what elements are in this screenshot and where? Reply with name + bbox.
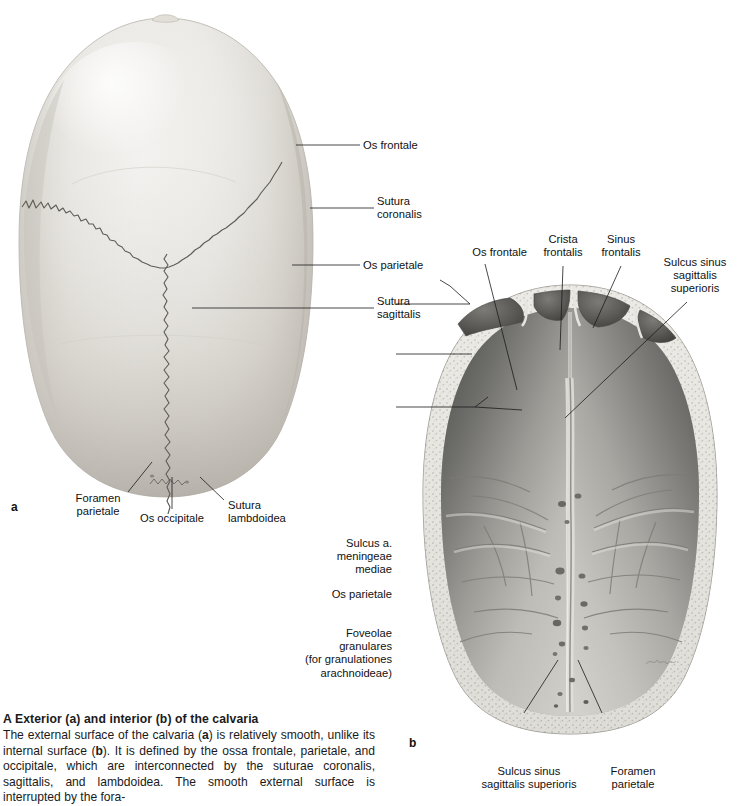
label-sulcus-sinus-sagittalis-superioris-bottom: Sulcus sinus sagittalis superioris — [470, 765, 588, 791]
figure-letter-a: a — [11, 500, 18, 514]
figure-letter-b: b — [409, 736, 416, 750]
caption-bold-a: a — [202, 728, 209, 742]
figure-caption: A Exterior (a) and interior (b) of the c… — [3, 712, 375, 806]
label-sinus-frontalis: Sinus frontalis — [589, 233, 653, 259]
figure-a-illustration — [0, 14, 340, 514]
label-sulcus-arteriae-meningeae-mediae: Sulcus a. meningeae mediae — [300, 537, 392, 577]
label-sulcus-sinus-sagittalis-superioris-top: Sulcus sinus sagittalis superioris — [653, 256, 737, 296]
calvaria-exterior-svg — [0, 14, 340, 514]
caption-heading: A Exterior (a) and interior (b) of the c… — [3, 712, 375, 726]
label-os-frontale-b: Os frontale — [455, 246, 527, 259]
calvaria-interior-svg — [410, 282, 730, 738]
label-sutura-coronalis: Sutura coronalis — [377, 195, 422, 221]
label-foramen-parietale-b: Foramen parietale — [595, 765, 671, 791]
label-crista-frontalis: Crista frontalis — [531, 233, 595, 259]
sulcus-sinus-sagittalis-groove — [566, 378, 571, 712]
figure-b-illustration — [410, 282, 730, 738]
caption-body: The external surface of the calvaria (a)… — [3, 728, 375, 806]
caption-text-1: The external surface of the calvaria ( — [3, 728, 202, 742]
label-foveolae-granulares: Foveolae granulares (for granulationes a… — [287, 627, 392, 680]
label-os-occipitale: Os occipitale — [124, 512, 220, 525]
label-sutura-lambdoidea: Sutura lambdoidea — [228, 499, 286, 525]
label-os-frontale: Os frontale — [363, 139, 418, 152]
label-os-parietale: Os parietale — [363, 259, 423, 272]
label-os-parietale-b: Os parietale — [300, 588, 392, 601]
caption-bold-b: b — [95, 744, 102, 758]
